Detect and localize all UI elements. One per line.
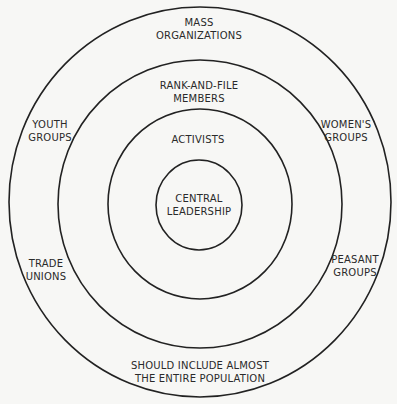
label-entire-population: SHOULD INCLUDE ALMOST THE ENTIRE POPULAT… bbox=[131, 359, 269, 385]
label-line: RANK-AND-FILE bbox=[160, 79, 239, 92]
label-line: SHOULD INCLUDE ALMOST bbox=[131, 359, 269, 372]
label-womens-groups: WOMEN'S GROUPS bbox=[321, 118, 372, 144]
label-line: LEADERSHIP bbox=[167, 205, 232, 218]
label-activists: ACTIVISTS bbox=[171, 133, 224, 146]
label-line: ORGANIZATIONS bbox=[156, 29, 242, 42]
label-line: GROUPS bbox=[321, 131, 372, 144]
label-line: WOMEN'S bbox=[321, 118, 372, 131]
label-line: GROUPS bbox=[331, 266, 379, 279]
label-peasant-groups: PEASANT GROUPS bbox=[331, 253, 379, 279]
label-line: YOUTH bbox=[28, 118, 71, 131]
label-line: MEMBERS bbox=[160, 92, 239, 105]
label-line: CENTRAL bbox=[167, 192, 232, 205]
label-line: MASS bbox=[156, 16, 242, 29]
label-rank-and-file: RANK-AND-FILE MEMBERS bbox=[160, 79, 239, 105]
label-central-leadership: CENTRAL LEADERSHIP bbox=[167, 192, 232, 218]
label-trade-unions: TRADE UNIONS bbox=[26, 257, 67, 283]
label-line: GROUPS bbox=[28, 131, 71, 144]
label-line: ACTIVISTS bbox=[171, 133, 224, 146]
label-youth-groups: YOUTH GROUPS bbox=[28, 118, 71, 144]
label-mass-organizations: MASS ORGANIZATIONS bbox=[156, 16, 242, 42]
label-line: THE ENTIRE POPULATION bbox=[131, 372, 269, 385]
label-line: TRADE bbox=[26, 257, 67, 270]
label-line: PEASANT bbox=[331, 253, 379, 266]
label-line: UNIONS bbox=[26, 270, 67, 283]
